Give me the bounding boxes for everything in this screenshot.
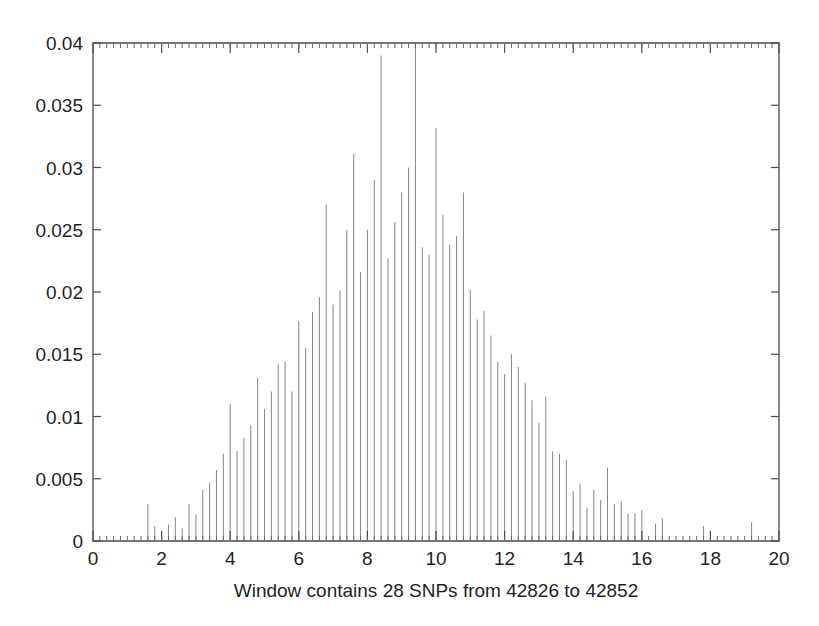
y-tick-label: 0.025 [35, 220, 83, 241]
y-tick-labels-group: 00.0050.010.0150.020.0250.030.0350.04 [35, 33, 83, 552]
x-tick-labels-group: 02468101214161820 [88, 548, 790, 569]
y-tick-label: 0.01 [46, 407, 83, 428]
x-tick-label: 6 [294, 548, 305, 569]
x-tick-label: 14 [563, 548, 585, 569]
x-tick-label: 20 [768, 548, 789, 569]
x-tick-label: 0 [88, 548, 99, 569]
x-axis-title: Window contains 28 SNPs from 42826 to 42… [234, 580, 639, 601]
y-tick-label: 0.005 [35, 469, 83, 490]
y-tick-label: 0.02 [46, 282, 83, 303]
y-tick-label: 0.035 [35, 95, 83, 116]
y-tick-label: 0.015 [35, 344, 83, 365]
plot-canvas: 02468101214161820 00.0050.010.0150.020.0… [0, 0, 819, 626]
chart-figure: 02468101214161820 00.0050.010.0150.020.0… [0, 0, 819, 626]
x-tick-label: 4 [225, 548, 236, 569]
stem-bars-group [148, 42, 752, 541]
x-tick-label: 12 [494, 548, 515, 569]
x-tick-label: 18 [700, 548, 721, 569]
x-tick-label: 8 [362, 548, 373, 569]
x-tick-label: 16 [631, 548, 652, 569]
y-tick-label: 0.04 [46, 33, 83, 54]
y-tick-label: 0 [72, 531, 83, 552]
x-tick-label: 2 [156, 548, 167, 569]
y-tick-label: 0.03 [46, 158, 83, 179]
x-tick-label: 10 [425, 548, 446, 569]
